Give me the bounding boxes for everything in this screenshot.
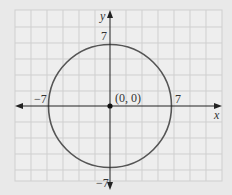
origin-label: (0, 0) xyxy=(115,91,141,105)
origin-point xyxy=(107,103,112,108)
circle-graph: y x 7 −7 −7 7 (0, 0) xyxy=(0,0,232,195)
x-axis-label: x xyxy=(213,108,220,122)
x-tick-neg-label: −7 xyxy=(34,92,47,106)
y-tick-neg-label: −7 xyxy=(96,176,109,190)
y-axis-label: y xyxy=(99,9,106,23)
x-tick-pos-label: 7 xyxy=(175,92,181,106)
y-tick-pos-label: 7 xyxy=(101,29,107,43)
